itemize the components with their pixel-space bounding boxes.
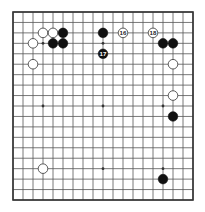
black-stone bbox=[58, 39, 68, 49]
black-stone bbox=[168, 39, 178, 49]
star-point bbox=[102, 42, 105, 45]
white-stone bbox=[28, 59, 38, 69]
black-stone bbox=[168, 112, 178, 122]
move-number-label: 16 bbox=[120, 29, 127, 36]
white-stone-18: 18 bbox=[148, 28, 158, 38]
white-stone bbox=[38, 28, 48, 38]
white-stone bbox=[38, 164, 48, 174]
white-stone bbox=[168, 59, 178, 69]
move-number-label: 17 bbox=[100, 50, 107, 57]
black-stone bbox=[158, 39, 168, 49]
star-point bbox=[102, 167, 105, 170]
white-stone bbox=[168, 91, 178, 101]
star-point bbox=[162, 167, 165, 170]
go-board: 161718 bbox=[0, 0, 205, 212]
black-stone-17: 17 bbox=[98, 49, 108, 59]
star-point bbox=[162, 105, 165, 108]
black-stone bbox=[98, 28, 108, 38]
black-stone bbox=[158, 174, 168, 184]
white-stone-16: 16 bbox=[118, 28, 128, 38]
star-point bbox=[42, 105, 45, 108]
black-stone bbox=[58, 28, 68, 38]
move-number-label: 18 bbox=[150, 29, 157, 36]
white-stone bbox=[48, 28, 58, 38]
white-stone bbox=[28, 39, 38, 49]
black-stone bbox=[48, 39, 58, 49]
star-point bbox=[42, 42, 45, 45]
star-point bbox=[102, 105, 105, 108]
